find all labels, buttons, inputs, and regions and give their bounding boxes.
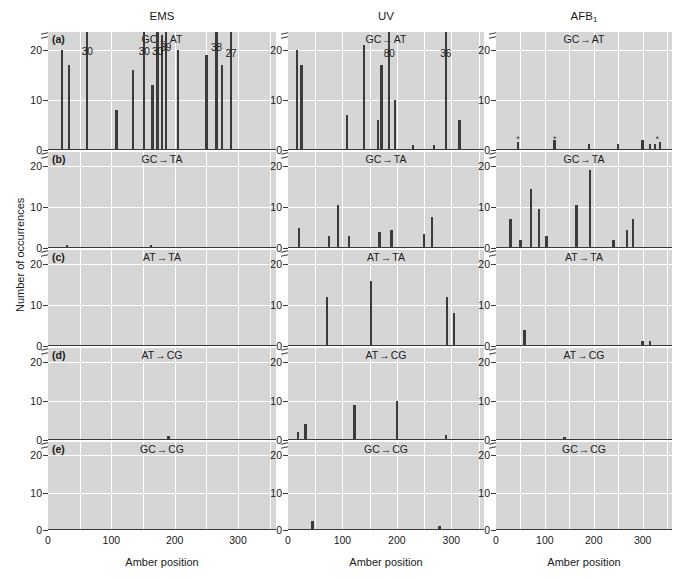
data-bar bbox=[167, 436, 169, 440]
data-bar bbox=[575, 205, 577, 248]
y-axis-tick-mark bbox=[283, 362, 288, 363]
x-axis-tick-label: 100 bbox=[536, 534, 554, 546]
column-title-uv: UV bbox=[288, 10, 484, 22]
axis-break-icon bbox=[41, 33, 48, 38]
x-axis-tick-label: 100 bbox=[103, 534, 121, 546]
x-axis-tick-label: 0 bbox=[45, 534, 51, 546]
mutation-type-label: GC→CG bbox=[48, 443, 276, 455]
y-axis-tick-mark bbox=[283, 493, 288, 494]
bar-value-annotation: 36 bbox=[440, 48, 451, 59]
bar-value-annotation: 30 bbox=[139, 46, 150, 57]
data-bar bbox=[453, 313, 455, 346]
chart-panel-e-afb1: GC→CG bbox=[496, 442, 672, 530]
data-bar bbox=[632, 219, 634, 248]
mutation-type-label: GC→TA bbox=[288, 153, 484, 165]
chart-panel-d-ems: (d)AT→CG bbox=[48, 348, 276, 440]
y-axis-tick-mark bbox=[283, 305, 288, 306]
data-bar bbox=[378, 232, 380, 248]
data-bar bbox=[221, 65, 223, 150]
mutation-to: CG bbox=[590, 443, 606, 455]
mutation-from: AT bbox=[143, 251, 156, 263]
y-axis-tick-label: 0 bbox=[466, 144, 490, 156]
mutation-spectrum-figure: EMSUVAFB1(a)GC→AT303030393827GC→AT8036GC… bbox=[0, 0, 677, 578]
mutation-to: AT bbox=[170, 33, 183, 45]
x-axis-tick-label: 300 bbox=[229, 534, 247, 546]
data-bar bbox=[458, 120, 460, 150]
y-axis-tick-mark bbox=[491, 50, 496, 51]
axis-baseline bbox=[496, 529, 672, 531]
mutation-to: TA bbox=[590, 251, 603, 263]
axis-baseline bbox=[288, 149, 484, 151]
arrow-icon: → bbox=[578, 443, 591, 455]
gridline-horizontal bbox=[496, 493, 672, 494]
y-axis-tick-label: 0 bbox=[258, 340, 282, 352]
arrow-icon: → bbox=[579, 33, 592, 45]
mutation-from: GC bbox=[364, 443, 380, 455]
axis-break-icon bbox=[41, 251, 48, 256]
axis-break-icon bbox=[41, 153, 48, 158]
data-bar bbox=[363, 45, 365, 150]
data-bar bbox=[348, 236, 350, 248]
gridline-horizontal bbox=[48, 401, 276, 402]
axis-break-icon bbox=[489, 33, 496, 38]
y-axis-tick-label: 10 bbox=[258, 94, 282, 106]
x-axis-tick-label: 300 bbox=[634, 534, 652, 546]
arrow-icon: → bbox=[156, 251, 169, 263]
mutation-to: CG bbox=[392, 443, 408, 455]
mutation-to: CG bbox=[168, 443, 184, 455]
gridline-horizontal bbox=[496, 305, 672, 306]
axis-baseline bbox=[48, 439, 276, 441]
x-axis-tick-label: 200 bbox=[166, 534, 184, 546]
data-bar bbox=[649, 341, 651, 346]
gridline-horizontal bbox=[48, 305, 276, 306]
y-axis-tick-mark bbox=[283, 100, 288, 101]
gridline-horizontal bbox=[48, 455, 276, 456]
gridline-horizontal bbox=[496, 166, 672, 167]
chart-panel-e-ems: (e)GC→CG bbox=[48, 442, 276, 530]
gridline-horizontal bbox=[48, 207, 276, 208]
gridline-horizontal bbox=[496, 401, 672, 402]
mutation-to: AT bbox=[394, 33, 407, 45]
chart-panel-b-uv: GC→TA bbox=[288, 152, 484, 248]
y-axis-tick-label: 20 bbox=[466, 356, 490, 368]
arrow-icon: → bbox=[578, 251, 591, 263]
y-axis-tick-label: 0 bbox=[466, 340, 490, 352]
gridline-horizontal bbox=[496, 264, 672, 265]
mutation-from: GC bbox=[564, 153, 580, 165]
y-axis-tick-mark bbox=[491, 401, 496, 402]
y-axis-tick-mark bbox=[491, 166, 496, 167]
y-axis-tick-label: 0 bbox=[258, 524, 282, 536]
axis-baseline bbox=[48, 247, 276, 249]
y-axis-tick-label: 10 bbox=[466, 201, 490, 213]
y-axis-tick-label: 20 bbox=[18, 160, 42, 172]
data-bar bbox=[412, 145, 414, 150]
data-bar bbox=[612, 240, 614, 248]
data-bar bbox=[431, 217, 433, 248]
data-bar bbox=[423, 234, 425, 248]
y-axis-tick-mark bbox=[283, 150, 288, 151]
y-axis-tick-mark bbox=[491, 530, 496, 531]
bar-value-annotation: 80 bbox=[384, 48, 395, 59]
arrow-icon: → bbox=[157, 153, 170, 165]
axis-break-icon bbox=[281, 251, 288, 256]
mutation-type-label: GC→AT bbox=[496, 33, 672, 45]
y-axis-tick-mark bbox=[43, 346, 48, 347]
data-bar bbox=[433, 145, 435, 150]
gridline-horizontal bbox=[496, 207, 672, 208]
y-axis-tick-mark bbox=[43, 401, 48, 402]
axis-break-icon bbox=[281, 443, 288, 448]
data-bar bbox=[304, 424, 306, 440]
y-axis-tick-mark bbox=[491, 264, 496, 265]
y-axis-tick-mark bbox=[283, 346, 288, 347]
y-axis-tick-label: 10 bbox=[258, 395, 282, 407]
gridline-horizontal bbox=[288, 493, 484, 494]
axis-baseline bbox=[48, 529, 276, 531]
y-axis-tick-mark bbox=[283, 530, 288, 531]
data-bar bbox=[61, 50, 63, 150]
y-axis-tick-label: 0 bbox=[258, 144, 282, 156]
axis-baseline bbox=[496, 247, 672, 249]
mutation-from: GC bbox=[366, 33, 382, 45]
y-axis-tick-mark bbox=[283, 248, 288, 249]
data-bar bbox=[177, 50, 179, 150]
y-axis-tick-mark bbox=[491, 455, 496, 456]
